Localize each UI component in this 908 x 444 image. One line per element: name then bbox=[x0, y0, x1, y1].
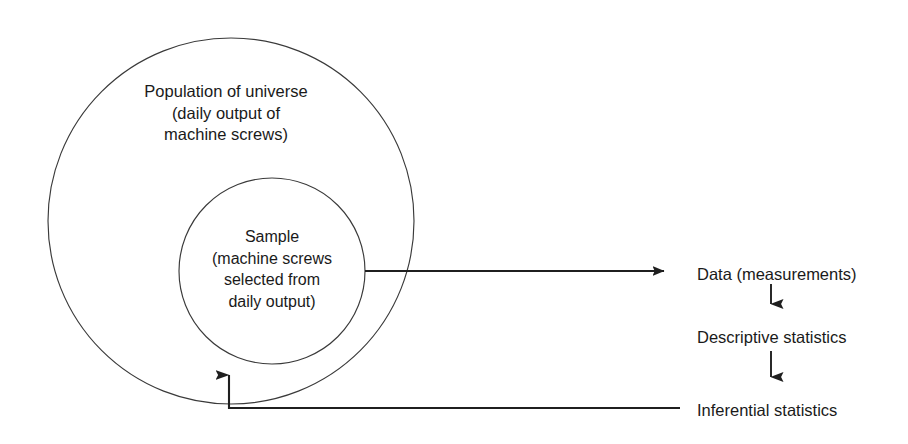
sample-label-line-3: selected from bbox=[212, 269, 332, 291]
sample-label-line-2: (machine screws bbox=[212, 248, 332, 270]
population-label-line-3: machine screws) bbox=[144, 124, 307, 146]
statistics-flow-diagram: Population of universe (daily output of … bbox=[0, 0, 908, 444]
sample-circle-label: Sample (machine screws selected from dai… bbox=[212, 226, 332, 312]
population-circle-label: Population of universe (daily output of … bbox=[144, 81, 307, 146]
population-label-line-2: (daily output of bbox=[144, 103, 307, 125]
diagram-canvas bbox=[0, 0, 908, 444]
sample-label-line-1: Sample bbox=[212, 226, 332, 248]
sample-label-line-4: daily output) bbox=[212, 291, 332, 313]
data-node-label: Data (measurements) bbox=[697, 264, 857, 286]
population-label-line-1: Population of universe bbox=[144, 81, 307, 103]
descriptive-statistics-node-label: Descriptive statistics bbox=[697, 327, 846, 349]
inferential-statistics-node-label: Inferential statistics bbox=[697, 400, 837, 422]
